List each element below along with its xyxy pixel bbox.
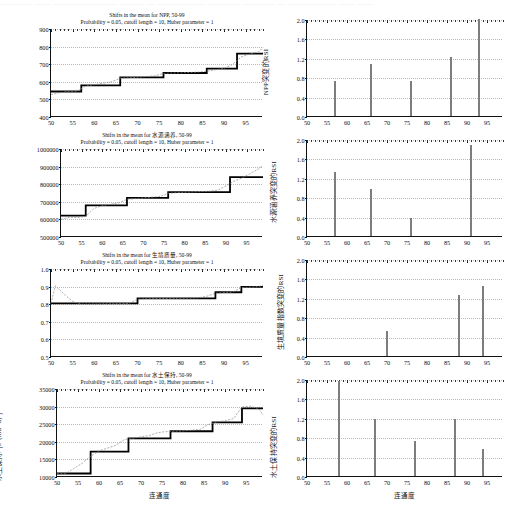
x-tick-label: 70	[134, 116, 140, 126]
x-minor-tick	[447, 140, 448, 142]
annual-series-line	[51, 285, 263, 304]
x-minor-tick	[463, 380, 464, 382]
x-minor-tick	[503, 140, 504, 142]
x-minor-tick	[319, 260, 320, 262]
x-minor-tick	[351, 140, 352, 142]
x-minor-tick	[423, 260, 424, 262]
gridline	[307, 20, 502, 21]
rsi-bar	[410, 218, 411, 236]
x-minor-tick	[431, 380, 432, 382]
rsi-bar	[370, 189, 371, 236]
gridline	[307, 59, 502, 60]
x-minor-tick	[359, 20, 360, 22]
x-minor-tick	[467, 20, 468, 22]
x-minor-tick	[451, 380, 452, 382]
y-tick-mark	[305, 98, 308, 99]
gridline	[307, 78, 502, 79]
x-minor-tick	[331, 380, 332, 382]
x-minor-tick	[343, 140, 344, 142]
gridline	[307, 438, 502, 439]
x-tick-label: 50	[304, 356, 310, 366]
x-tick-label: 60	[96, 476, 102, 486]
npp-step-title-block: Shifts in the mean for NPP, 50-99 Probab…	[30, 12, 264, 26]
rsi-bar	[370, 64, 371, 116]
y-axis-label: 生境质量指数突变的RSI	[275, 274, 285, 350]
x-minor-tick	[499, 380, 500, 382]
gridline	[307, 140, 502, 141]
x-minor-tick	[339, 140, 340, 142]
x-minor-tick	[467, 380, 468, 382]
x-minor-tick	[383, 260, 384, 262]
x-tick-label: 55	[70, 116, 76, 126]
x-tick-label: 60	[91, 356, 97, 366]
x-tick-label: 80	[424, 236, 430, 246]
y-tick-mark	[305, 399, 308, 400]
gridline	[307, 419, 502, 420]
chart-subtitle: Probability = 0.05, cutoff length = 10, …	[30, 379, 264, 386]
x-minor-tick	[363, 380, 364, 382]
x-minor-tick	[411, 380, 412, 382]
rsi-bar	[478, 19, 479, 116]
x-tick-label: 70	[138, 476, 144, 486]
x-minor-tick	[363, 20, 364, 22]
plot-area: 0.00.40.81.21.62.050556065707580859095	[306, 140, 502, 237]
x-minor-tick	[315, 380, 316, 382]
x-minor-tick	[323, 260, 324, 262]
x-minor-tick	[415, 140, 416, 142]
x-tick-label: 80	[182, 236, 188, 246]
x-tick-label: 70	[384, 236, 390, 246]
x-minor-tick	[407, 20, 408, 22]
x-minor-tick	[375, 20, 376, 22]
x-minor-tick	[327, 20, 328, 22]
x-minor-tick	[399, 20, 400, 22]
x-tick-label: 85	[444, 356, 450, 366]
x-minor-tick	[319, 380, 320, 382]
x-tick-label: 65	[364, 476, 370, 486]
x-minor-tick	[407, 260, 408, 262]
gridline	[307, 299, 502, 300]
x-minor-tick	[495, 20, 496, 22]
annual-series-line	[61, 165, 263, 219]
x-minor-tick	[451, 20, 452, 22]
x-minor-tick	[391, 20, 392, 22]
x-minor-tick	[503, 20, 504, 22]
x-tick-label: 60	[344, 116, 350, 126]
x-tick-label: 60	[99, 236, 105, 246]
x-minor-tick	[339, 260, 340, 262]
x-tick-label: 80	[178, 116, 184, 126]
plot-area: 1000015000200002500030000350005055606570…	[56, 389, 262, 477]
x-tick-label: 70	[384, 356, 390, 366]
x-tick-label: 75	[404, 236, 410, 246]
x-minor-tick	[491, 20, 492, 22]
gridline	[307, 338, 502, 339]
x-minor-tick	[315, 140, 316, 142]
x-tick-label: 85	[444, 236, 450, 246]
x-minor-tick	[447, 380, 448, 382]
x-tick-label: 60	[91, 116, 97, 126]
series-layer	[51, 269, 263, 357]
plot-area: 0.50.60.70.80.91.050556065707580859095	[50, 269, 262, 357]
x-tick-label: 80	[424, 116, 430, 126]
x-tick-label: 50	[48, 356, 54, 366]
x-tick-label: 65	[117, 476, 123, 486]
x-minor-tick	[399, 140, 400, 142]
plot-area: 0.00.40.81.21.62.050556065707580859095	[306, 380, 502, 477]
x-tick-label: 60	[344, 476, 350, 486]
x-minor-tick	[499, 260, 500, 262]
x-axis-label: 连通度	[306, 490, 502, 500]
x-minor-tick	[407, 380, 408, 382]
x-minor-tick	[379, 260, 380, 262]
chart-row-soil: Shifts in the mean for 水土保持, 50-99 Proba…	[0, 372, 511, 521]
x-tick-label: 65	[364, 116, 370, 126]
x-minor-tick	[415, 20, 416, 22]
soil-step-title-block: Shifts in the mean for 水土保持, 50-99 Proba…	[30, 372, 264, 386]
y-tick-mark	[305, 299, 308, 300]
x-tick-label: 95	[243, 476, 249, 486]
x-tick-label: 50	[304, 476, 310, 486]
x-minor-tick	[335, 380, 336, 382]
x-tick-label: 75	[404, 476, 410, 486]
x-minor-tick	[439, 380, 440, 382]
x-minor-tick	[483, 260, 484, 262]
x-minor-tick	[263, 269, 264, 271]
x-minor-tick	[323, 140, 324, 142]
